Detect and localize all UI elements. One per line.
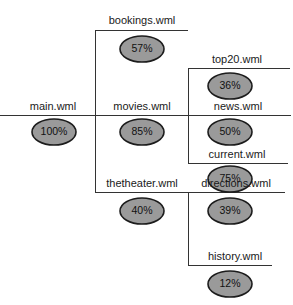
node-label-news: news.wml bbox=[203, 100, 273, 112]
ellipse-history bbox=[207, 270, 253, 298]
edge-trunk-left bbox=[95, 30, 96, 193]
node-label-history: history.wml bbox=[196, 250, 274, 262]
ellipse-directions bbox=[207, 197, 253, 225]
edge-bookings bbox=[95, 30, 188, 31]
edge-thetheater bbox=[95, 192, 285, 193]
node-label-top20: top20.wml bbox=[199, 53, 275, 65]
node-label-bookings: bookings.wml bbox=[101, 14, 183, 26]
ellipse-main bbox=[31, 118, 77, 146]
node-label-movies: movies.wml bbox=[103, 100, 181, 112]
node-label-current: current.wml bbox=[196, 148, 278, 160]
edge-news bbox=[188, 115, 290, 116]
site-hierarchy-diagram: main.wml 100% bookings.wml 57% movies.wm… bbox=[0, 0, 293, 305]
node-label-directions: directions.wml bbox=[190, 177, 282, 189]
ellipse-news bbox=[207, 118, 253, 146]
edge-history bbox=[188, 265, 272, 266]
edge-trunk-right-lower bbox=[188, 192, 189, 265]
ellipse-movies bbox=[119, 118, 165, 146]
ellipse-top20 bbox=[207, 72, 253, 100]
ellipse-thetheater bbox=[119, 197, 165, 225]
node-label-main: main.wml bbox=[13, 100, 93, 112]
edge-top20 bbox=[188, 68, 290, 69]
ellipse-bookings bbox=[119, 35, 165, 63]
node-label-thetheater: thetheater.wml bbox=[99, 177, 185, 189]
